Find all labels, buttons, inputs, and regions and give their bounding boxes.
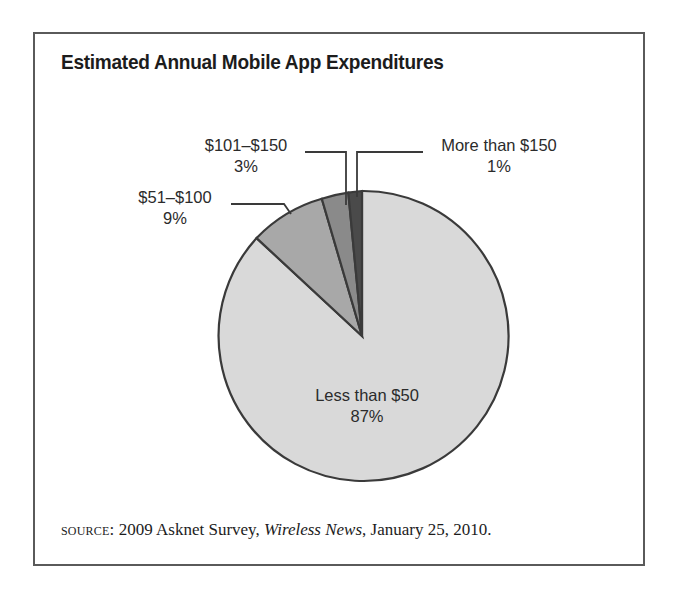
slice-label-less-than-50-name: Less than $50 <box>315 386 419 404</box>
slice-label-51-100-pct: 9% <box>116 208 234 229</box>
slice-label-more-than-150-name: More than $150 <box>441 136 557 154</box>
source-date-text: , January 25, 2010. <box>362 520 491 539</box>
source-note: source: 2009 Asknet Survey, Wireless New… <box>61 520 491 540</box>
slice-label-more-than-150-pct: 1% <box>425 156 573 177</box>
slice-label-more-than-150: More than $150 1% <box>425 135 573 177</box>
slice-label-less-than-50-pct: 87% <box>287 406 447 427</box>
source-publication-title: Wireless News <box>264 520 362 539</box>
slice-label-51-100: $51–$100 9% <box>116 187 234 229</box>
source-label: source: <box>61 520 114 539</box>
slice-label-less-than-50: Less than $50 87% <box>287 385 447 427</box>
slice-label-101-150-name: $101–$150 <box>205 136 288 154</box>
slice-label-101-150: $101–$150 3% <box>187 135 305 177</box>
chart-figure-frame: Estimated Annual Mobile App Expenditures… <box>33 32 645 566</box>
slice-label-101-150-pct: 3% <box>187 156 305 177</box>
leader-line-51-100 <box>231 204 291 214</box>
source-survey-text: 2009 Asknet Survey, <box>114 520 264 539</box>
pie-chart-canvas <box>35 34 647 568</box>
slice-label-51-100-name: $51–$100 <box>138 188 211 206</box>
